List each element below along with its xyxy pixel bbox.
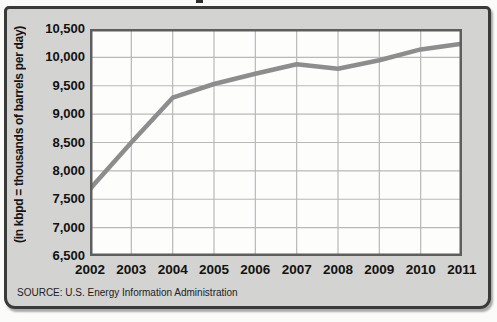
y-tick-label: 7,000 [21,220,85,236]
data-line [90,44,462,189]
y-tick-label: 9,500 [21,78,85,94]
source-note: SOURCE: U.S. Energy Information Administ… [17,287,238,298]
plot-area [90,29,462,256]
page-background: (in kbpd = thousands of barrels per day)… [0,0,497,322]
y-tick-label: 9,000 [21,106,85,122]
cropped-title-fragment [196,0,203,3]
x-tick-label: 2011 [438,262,486,277]
y-tick-label: 8,500 [21,135,85,151]
y-tick-label: 10,500 [21,21,85,37]
line-chart-svg [90,29,462,256]
y-tick-label: 7,500 [21,191,85,207]
y-tick-label: 8,000 [21,163,85,179]
y-tick-label: 10,000 [21,49,85,65]
chart-frame: (in kbpd = thousands of barrels per day)… [4,6,491,309]
